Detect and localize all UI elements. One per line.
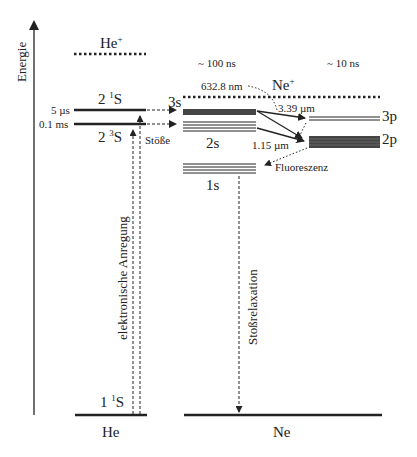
ne-ion-name: Ne xyxy=(272,77,290,93)
ne-ion-charge: + xyxy=(290,76,295,86)
neon-name: Ne xyxy=(273,425,291,440)
he-2-1S-lifetime: 5 µs xyxy=(51,105,70,116)
ne-p-lifetime: ~ 10 ns xyxy=(327,58,359,69)
ne-1s-level xyxy=(183,164,256,173)
helium-name: He xyxy=(102,425,120,440)
he-2-3S-label: 2 3S xyxy=(98,130,122,145)
relaxation-label: Stoßrelaxation xyxy=(246,269,259,345)
he-ion-name: He xyxy=(100,35,118,51)
energy-axis xyxy=(29,20,39,415)
level-prefix: 1 xyxy=(100,394,111,410)
level-suffix: S xyxy=(114,91,122,107)
ne-3p-level xyxy=(309,117,380,120)
he-ion-label: He+ xyxy=(100,36,123,51)
level-prefix: 2 xyxy=(98,91,109,107)
wavelength-1150-label: 1.15 µm xyxy=(252,140,289,151)
ne-ion-label: Ne+ xyxy=(272,78,295,93)
fluorescence-label: Fluoreszenz xyxy=(275,162,328,173)
ne-2s-level xyxy=(183,122,256,131)
ne-3p-label: 3p xyxy=(382,109,397,124)
axis-arrow-icon xyxy=(29,20,39,30)
collision-label: Stöße xyxy=(145,135,170,146)
level-prefix: 2 xyxy=(98,129,109,145)
ne-3s-label: 3s xyxy=(168,95,181,110)
he-ion-charge: + xyxy=(118,34,123,44)
ne-3s-level xyxy=(183,109,256,115)
ne-2p-label: 2p xyxy=(382,132,397,147)
ne-2s-label: 2s xyxy=(206,136,219,151)
ne-2p-level xyxy=(309,136,380,148)
energy-axis-label: Energie xyxy=(15,42,28,82)
he-1-1S-label: 1 1S xyxy=(100,395,124,410)
he-2-3S-lifetime: 0.1 ms xyxy=(39,119,68,130)
wavelength-3390-label: 3.39 µm xyxy=(278,103,315,114)
he-2-1S-label: 2 1S xyxy=(98,92,122,107)
ne-s-lifetime: ~ 100 ns xyxy=(198,58,236,69)
level-suffix: S xyxy=(116,394,124,410)
ne-1s-label: 1s xyxy=(206,178,219,193)
wavelength-632-label: 632.8 nm xyxy=(201,81,243,92)
level-suffix: S xyxy=(114,129,122,145)
excitation-label: elektronische Anregung xyxy=(116,216,129,340)
